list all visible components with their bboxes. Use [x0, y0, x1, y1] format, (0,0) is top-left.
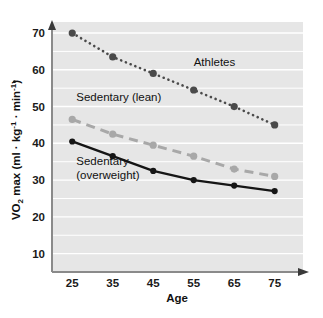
y-axis-tick-label: 60	[32, 64, 45, 76]
data-point-marker	[69, 29, 76, 36]
data-point-marker	[191, 177, 197, 183]
y-axis-tick-labels: 10203040506070	[32, 27, 45, 260]
y-axis-tick-label: 70	[32, 27, 45, 39]
y-axis-title-close: )	[10, 80, 22, 84]
data-point-marker	[150, 70, 157, 77]
x-axis-tick-label: 65	[228, 277, 241, 289]
data-point-marker	[231, 165, 238, 172]
x-axis-tick-label: 25	[66, 277, 79, 289]
data-point-marker	[69, 116, 76, 123]
y-axis-title: VO2 max (ml · kg-1 · min-1)	[9, 80, 25, 220]
v-dot-overdot-icon	[13, 80, 16, 83]
y-axis-tick-label: 10	[32, 248, 45, 260]
data-point-marker	[109, 53, 116, 60]
x-axis-tick-label: 45	[147, 277, 160, 289]
y-axis-tick-label: 20	[32, 211, 45, 223]
y-axis-tick-label: 40	[32, 137, 45, 149]
y-axis-title-max: max (ml · kg	[10, 129, 22, 199]
x-axis-arrowhead	[298, 268, 309, 276]
data-point-marker	[271, 173, 278, 180]
data-point-marker	[190, 86, 197, 93]
x-axis-tick-label: 55	[187, 277, 200, 289]
series-label-sedentary-lean: Sedentary (lean)	[76, 91, 161, 103]
y-axis-tick-label: 30	[32, 174, 45, 186]
x-axis-tick-label: 75	[268, 277, 281, 289]
vo2max-vs-age-line-chart: 10203040506070 253545556575 AthletesSede…	[0, 0, 323, 318]
x-axis-tick-labels: 253545556575	[66, 277, 282, 289]
data-point-marker	[109, 131, 116, 138]
data-point-marker	[231, 183, 237, 189]
data-point-marker	[231, 103, 238, 110]
data-point-marker	[190, 153, 197, 160]
y-axis-title-o: O	[10, 203, 22, 212]
series-label-sedentary-overweight-line1: Sedentary	[76, 155, 129, 167]
data-point-marker	[150, 142, 157, 149]
y-axis-tick-label: 50	[32, 101, 45, 113]
svg-text:VO2 max (ml · kg-1 · min-1): VO2 max (ml · kg-1 · min-1)	[9, 80, 25, 220]
data-point-marker	[271, 121, 278, 128]
data-point-marker	[150, 168, 156, 174]
data-point-marker	[69, 138, 75, 144]
series-label-sedentary-overweight-line2: (overweight)	[76, 169, 139, 181]
data-point-marker	[272, 188, 278, 194]
chart-figure: 10203040506070 253545556575 AthletesSede…	[0, 0, 323, 318]
x-axis-title: Age	[166, 292, 188, 304]
y-axis-title-mid: · min	[10, 91, 22, 122]
series-label-athletes: Athletes	[194, 56, 236, 68]
x-axis-tick-label: 35	[106, 277, 119, 289]
